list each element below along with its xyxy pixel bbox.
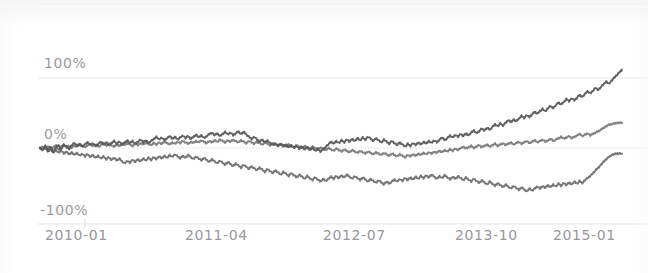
series-line-3	[40, 147, 622, 191]
xtick-label-2013-10: 2013-10	[455, 227, 518, 243]
series-group	[40, 70, 622, 192]
chart-container: 100% 0% -100% 2010-01 2011-04 2012-07 20…	[0, 0, 648, 273]
ytick-label-100: 100%	[44, 55, 86, 71]
xtick-label-2011-04: 2011-04	[185, 227, 248, 243]
xtick-label-2010-01: 2010-01	[45, 227, 108, 243]
gridlines	[38, 4, 648, 228]
xtick-label-2012-07: 2012-07	[323, 227, 386, 243]
xtick-label-2015-01: 2015-01	[553, 227, 616, 243]
ytick-label-0: 0%	[44, 126, 67, 142]
ytick-label-minus-100: -100%	[40, 202, 88, 218]
